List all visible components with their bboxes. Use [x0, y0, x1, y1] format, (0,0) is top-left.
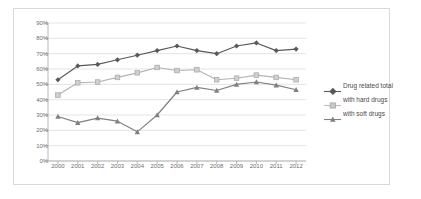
- x-axis-tick-label: 2002: [91, 163, 104, 169]
- x-axis-tick-label: 2008: [210, 163, 223, 169]
- y-axis-tick-label: 80%: [24, 35, 48, 41]
- y-axis-tick-label: 30%: [24, 112, 48, 118]
- legend-item-with-soft-drugs: with soft drugs: [324, 107, 416, 121]
- x-axis-tick-label: 2012: [289, 163, 302, 169]
- legend-label: with hard drugs: [343, 97, 387, 104]
- x-axis-tick-label: 2000: [51, 163, 64, 169]
- x-axis-tick-labels: 2000200120022003200420052006200720082009…: [14, 163, 391, 177]
- legend-item-drug-related-total: Drug related total: [324, 79, 416, 93]
- y-axis-tick-label: 90%: [24, 20, 48, 26]
- x-axis-tick-label: 2006: [170, 163, 183, 169]
- legend-marker-diamond-icon: [324, 82, 341, 91]
- series-group: [55, 40, 299, 134]
- x-axis-tick-label: 2010: [250, 163, 263, 169]
- legend-label: Drug related total: [343, 83, 393, 90]
- legend-marker-triangle-icon: [324, 110, 341, 119]
- y-axis-tick-label: 40%: [24, 97, 48, 103]
- x-axis-tick-label: 2001: [71, 163, 84, 169]
- x-axis-tick-label: 2011: [270, 163, 283, 169]
- y-axis-tick-label: 70%: [24, 51, 48, 57]
- x-axis-tick-label: 2003: [111, 163, 124, 169]
- chart-container: 0%10%20%30%40%50%60%70%80%90% 2000200120…: [13, 8, 390, 185]
- chart-legend: Drug related total with hard drugs with …: [324, 79, 416, 123]
- x-axis-tick-label: 2005: [150, 163, 163, 169]
- legend-label: with soft drugs: [343, 111, 385, 118]
- data-series: [55, 79, 299, 134]
- y-axis-tick-label: 20%: [24, 127, 48, 133]
- y-axis-tick-label: 60%: [24, 66, 48, 72]
- x-axis-tick-label: 2004: [131, 163, 144, 169]
- legend-marker-square-icon: [324, 96, 341, 105]
- y-axis-tick-label: 50%: [24, 81, 48, 87]
- x-axis-tick-label: 2007: [190, 163, 203, 169]
- plot-area: 0%10%20%30%40%50%60%70%80%90% 2000200120…: [14, 9, 391, 186]
- x-axis-tick-label: 2009: [230, 163, 243, 169]
- y-axis-tick-label: 10%: [24, 143, 48, 149]
- legend-item-with-hard-drugs: with hard drugs: [324, 93, 416, 107]
- y-axis-tick-labels: 0%10%20%30%40%50%60%70%80%90%: [22, 9, 48, 186]
